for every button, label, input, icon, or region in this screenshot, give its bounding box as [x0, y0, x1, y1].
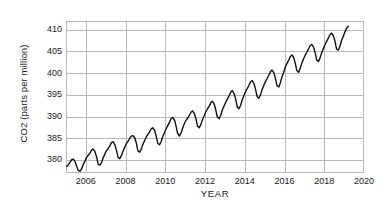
x-tick-label: 2014 [225, 176, 265, 186]
x-axis-tick-labels: 20062008201020122014201620182020 [66, 176, 364, 188]
x-tick-label: 2016 [265, 176, 305, 186]
gridlines [66, 21, 364, 173]
y-tick-label: 410 [32, 25, 62, 34]
y-tick-label: 385 [32, 134, 62, 143]
chart-svg [66, 21, 364, 173]
plot-area [66, 21, 364, 173]
y-axis-label: CO2 (parts per million) [18, 9, 29, 179]
y-tick-label: 405 [32, 47, 62, 56]
co2-chart-figure: CO2 (parts per million) 3803853903954004… [0, 0, 389, 213]
x-tick-label: 2018 [304, 176, 344, 186]
y-tick-label: 380 [32, 155, 62, 164]
x-axis-label: YEAR [66, 188, 364, 199]
x-tick-label: 2010 [145, 176, 185, 186]
x-tick-label: 2012 [185, 176, 225, 186]
y-tick-label: 395 [32, 90, 62, 99]
plot-frame [67, 22, 364, 173]
x-tick-label: 2006 [66, 176, 106, 186]
x-tick-label: 2008 [106, 176, 146, 186]
y-tick-label: 390 [32, 112, 62, 121]
y-tick-label: 400 [32, 69, 62, 78]
co2-series-line [67, 26, 349, 171]
y-axis-tick-labels: 380385390395400405410 [30, 21, 62, 173]
x-tick-label: 2020 [344, 176, 384, 186]
